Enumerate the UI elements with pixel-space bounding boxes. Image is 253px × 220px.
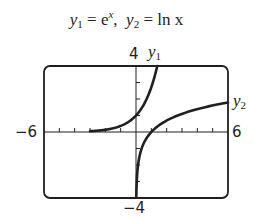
curve-label-y2: y2 xyxy=(233,91,246,111)
y-min-label: −4 xyxy=(123,199,145,217)
curve2-letter: y xyxy=(233,91,241,110)
curve2-sub: 2 xyxy=(241,99,247,111)
x-max-label: 6 xyxy=(232,123,242,141)
curve-label-y1: y1 xyxy=(148,42,161,62)
curve1-letter: y xyxy=(148,42,156,61)
curve-y2 xyxy=(136,102,228,196)
plot-area xyxy=(0,0,253,220)
curve-y1 xyxy=(90,66,157,131)
x-min-label: −6 xyxy=(15,123,37,141)
y-max-label: 4 xyxy=(129,45,139,63)
curve1-sub: 1 xyxy=(156,50,162,62)
